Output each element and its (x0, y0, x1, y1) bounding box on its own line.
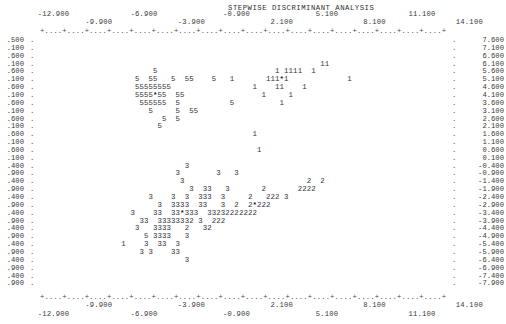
x-axis-tick-label: 2.100 (271, 18, 294, 26)
plot-frame-dot: . (452, 201, 456, 209)
plot-frame-dot: . (452, 60, 456, 68)
plot-frame-dot: . (30, 240, 34, 248)
y-axis-right-tick-label: -7.900 (462, 279, 504, 287)
data-point-group-3: 3 (130, 209, 134, 217)
y-axis-left-tick-label: .400 (0, 272, 24, 280)
y-axis-right-tick-label: 4.100 (462, 91, 504, 99)
data-point-group-1: 1 (252, 130, 256, 138)
data-point-group-5: 5 (212, 75, 216, 83)
plot-frame-dot: . (30, 232, 34, 240)
x-axis-tick-label: 5.100 (316, 310, 339, 318)
plot-frame-dot: . (30, 154, 34, 162)
y-axis-right-tick-label: -2.900 (462, 201, 504, 209)
plot-frame-dot: . (30, 83, 34, 91)
y-axis-left-tick-label: .100 (0, 122, 24, 130)
plot-frame-dot: . (452, 99, 456, 107)
plot-frame-dot: . (30, 209, 34, 217)
plot-frame-dot: . (452, 130, 456, 138)
x-axis-tick-label: 11.100 (408, 10, 435, 18)
data-point-group-5: 5 (162, 91, 166, 99)
data-point-group-1: 1 (311, 67, 315, 75)
y-axis-left-tick-label: .500 (0, 36, 24, 44)
data-point-group-5: 5 (153, 67, 157, 75)
y-axis-right-tick-label: -4.400 (462, 224, 504, 232)
y-axis-left-tick-label: .900 (0, 185, 24, 193)
data-point-group-2: 2 (266, 201, 270, 209)
y-axis-right-tick-label: 2.100 (462, 122, 504, 130)
x-axis-tick-label: 14.100 (456, 301, 483, 309)
y-axis-right-tick-label: -6.900 (462, 264, 504, 272)
x-axis-tick-label: 5.100 (316, 10, 339, 18)
plot-frame-dot: . (452, 122, 456, 130)
y-axis-right-tick-label: -0.900 (462, 169, 504, 177)
y-axis-right-tick-label: -6.400 (462, 256, 504, 264)
x-axis-tick-label: -3.900 (178, 18, 205, 26)
plot-frame-dot: . (452, 272, 456, 280)
y-axis-right-tick-label: -1.900 (462, 185, 504, 193)
x-axis-tick-label: -12.900 (38, 10, 70, 18)
data-point-group-1: 1 (302, 83, 306, 91)
plot-frame-dot: . (30, 146, 34, 154)
x-axis-tick-label: -12.900 (38, 310, 70, 318)
data-point-group-2: 2 (185, 224, 189, 232)
y-axis-left-tick-label: .400 (0, 256, 24, 264)
plot-frame-dot: . (452, 52, 456, 60)
y-axis-left-tick-label: .100 (0, 91, 24, 99)
y-axis-left-tick-label: .100 (0, 75, 24, 83)
y-axis-left-tick-label: .400 (0, 209, 24, 217)
y-axis-left-tick-label: .900 (0, 169, 24, 177)
data-point-group-2: 2 (207, 224, 211, 232)
data-point-group-5: 5 (153, 75, 157, 83)
data-point-group-1: 1 (257, 146, 261, 154)
plot-frame-dot: . (452, 75, 456, 83)
data-point-group-3: 3 (221, 201, 225, 209)
data-point-group-3: 3 (185, 232, 189, 240)
data-point-group-2: 2 (221, 217, 225, 225)
plot-frame-dot: . (452, 193, 456, 201)
data-point-group-3: 3 (176, 240, 180, 248)
data-point-group-1: 1 (325, 60, 329, 68)
x-axis-bottom-ticks: +....+....+....+....+....+....+....+....… (40, 293, 446, 301)
data-point-group-3: 3 (167, 232, 171, 240)
y-axis-left-tick-label: .600 (0, 67, 24, 75)
plot-frame-dot: . (30, 138, 34, 146)
plot-frame-dot: . (452, 217, 456, 225)
x-axis-tick-label: 8.100 (363, 301, 386, 309)
data-point-group-5: 5 (176, 115, 180, 123)
data-point-group-1: 1 (280, 83, 284, 91)
plot-frame-dot: . (452, 185, 456, 193)
y-axis-left-tick-label: .100 (0, 154, 24, 162)
y-axis-left-tick-label: .600 (0, 146, 24, 154)
plot-frame-dot: . (452, 209, 456, 217)
stepwise-discriminant-analysis-plot: STEPWISE DISCRIMINANT ANALYSIS -12.900-6… (0, 0, 506, 324)
y-axis-right-tick-label: 1.100 (462, 138, 504, 146)
data-point-group-3: 3 (284, 193, 288, 201)
y-axis-left-tick-label: .100 (0, 44, 24, 52)
y-axis-left-tick-label: .600 (0, 99, 24, 107)
plot-frame-dot: . (452, 115, 456, 123)
plot-frame-dot: . (452, 256, 456, 264)
data-point-group-1: 1 (230, 75, 234, 83)
data-point-group-5: 5 (162, 115, 166, 123)
data-point-group-1: 1 (347, 75, 351, 83)
y-axis-right-tick-label: 7.100 (462, 44, 504, 52)
data-point-group-3: 3 (158, 201, 162, 209)
plot-frame-dot: . (30, 224, 34, 232)
x-axis-tick-label: -9.900 (85, 18, 112, 26)
y-axis-right-tick-label: 6.600 (462, 52, 504, 60)
data-point-group-3: 3 (158, 209, 162, 217)
data-point-group-3: 3 (148, 193, 152, 201)
plot-frame-dot: . (452, 232, 456, 240)
y-axis-left-tick-label: .900 (0, 201, 24, 209)
data-point-group-1: 1 (275, 67, 279, 75)
data-point-group-5: 5 (171, 75, 175, 83)
y-axis-right-tick-label: 0.600 (462, 146, 504, 154)
data-point-group-1: 1 (289, 91, 293, 99)
plot-frame-dot: . (30, 177, 34, 185)
y-axis-left-tick-label: .900 (0, 279, 24, 287)
plot-frame-dot: . (30, 185, 34, 193)
data-point-group-2: 2 (307, 177, 311, 185)
data-point-group-5: 5 (158, 122, 162, 130)
plot-frame-dot: . (30, 36, 34, 44)
plot-frame-dot: . (30, 256, 34, 264)
